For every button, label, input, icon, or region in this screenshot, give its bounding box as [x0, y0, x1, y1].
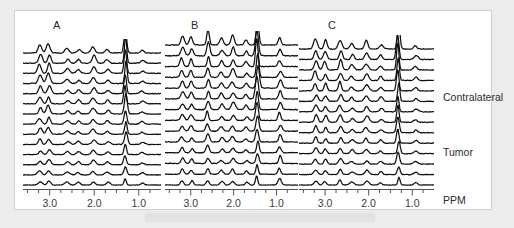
- spectra-stack-c: [299, 35, 434, 189]
- spectra-traces: [23, 39, 161, 189]
- annotation-tumor: Tumor: [443, 146, 473, 158]
- spectra-traces: [299, 35, 434, 189]
- spectra-traces: [165, 31, 298, 189]
- ppm-axis-c: 3.02.01.0: [299, 186, 434, 214]
- axis-tick-label: 1.0: [405, 197, 420, 209]
- spectrum-trace: [299, 105, 434, 122]
- axis-tick-label: 1.0: [269, 197, 284, 209]
- spectrum-trace: [23, 85, 161, 104]
- axis-tick-label: 3.0: [183, 197, 198, 209]
- panel-b-label: B: [191, 19, 199, 31]
- axis-tick-label: 2.0: [87, 197, 102, 209]
- spectrum-trace: [23, 156, 161, 165]
- axis-line-and-ticks: 3.02.01.0: [299, 186, 434, 214]
- panel-a: A 3.02.01.0: [15, 11, 165, 211]
- spectrum-trace: [165, 76, 298, 99]
- spectrum-trace: [299, 35, 434, 49]
- spectrum-trace: [299, 58, 434, 81]
- panel-c: C 3.02.01.0 Contralateral Tumor PPM: [297, 11, 493, 211]
- panel-a-label: A: [53, 19, 61, 31]
- ppm-unit-label: PPM: [443, 194, 466, 206]
- panel-b: B 3.02.01.0: [163, 11, 303, 211]
- axis-tick-label: 2.0: [226, 197, 241, 209]
- ppm-axis-b: 3.02.01.0: [165, 186, 298, 214]
- spectrum-trace: [23, 39, 161, 53]
- spectrum-trace: [165, 165, 298, 175]
- spectrum-trace: [23, 179, 161, 185]
- spectra-stack-b: [165, 31, 298, 189]
- spectrum-trace: [165, 31, 298, 45]
- spectrum-trace: [299, 152, 434, 164]
- axis-line-and-ticks: 3.02.01.0: [165, 186, 298, 214]
- spectrum-trace: [165, 141, 298, 153]
- spectrum-trace: [165, 31, 298, 56]
- spectrum-trace: [299, 167, 434, 175]
- caption-bar: [145, 213, 375, 222]
- axis-line-and-ticks: 3.02.01.0: [23, 186, 161, 214]
- axis-tick-label: 3.0: [42, 197, 57, 209]
- axis-tick-label: 2.0: [361, 197, 376, 209]
- spectrum-trace: [165, 176, 298, 185]
- spectrum-trace: [23, 94, 161, 115]
- annotation-contralateral: Contralateral: [443, 91, 503, 103]
- spectrum-trace: [165, 130, 298, 143]
- spectrum-trace: [165, 154, 298, 164]
- panel-c-label: C: [328, 19, 336, 31]
- ppm-axis-a: 3.02.01.0: [23, 186, 161, 214]
- spectrum-trace: [299, 177, 434, 185]
- spectrum-trace: [23, 144, 161, 155]
- spectra-stack-a: [23, 39, 161, 189]
- spectrum-trace: [299, 70, 434, 91]
- axis-tick-label: 1.0: [131, 197, 146, 209]
- axis-tick-label: 3.0: [318, 197, 333, 209]
- spectrum-trace: [23, 167, 161, 175]
- figure-frame: A 3.02.01.0 B 3.02.01.0 C 3.02.01.0 Cont…: [14, 10, 492, 210]
